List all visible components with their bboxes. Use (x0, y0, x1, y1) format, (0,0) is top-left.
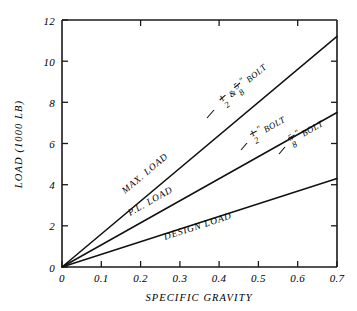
y-tick-label: 8 (49, 97, 55, 109)
y-tick-labels: 12 10 8 6 4 2 0 (43, 15, 55, 275)
bolt-annotation-pl-load: 1 2 " BOLT (247, 110, 290, 145)
series-line-max-load (62, 36, 337, 267)
y-tick-label: 10 (43, 56, 55, 68)
bolt2-text: BOLT (262, 114, 288, 134)
bolt-frac-1-den: 2 (222, 99, 232, 110)
x-tick-label: 0.7 (330, 272, 345, 284)
curve-label-design-load: DESIGN LOAD (162, 210, 233, 242)
x-tick-label: 0.2 (133, 272, 148, 284)
y-axis-ticks (62, 20, 68, 267)
bolt2-frac-den: 2 (252, 135, 261, 146)
x-axis-ticks (62, 261, 337, 267)
x-tick-label: 0.6 (290, 272, 305, 284)
x-axis-title: SPECIFIC GRAVITY (145, 292, 252, 303)
x-tick-label: 0.1 (94, 272, 109, 284)
bolt-frac-2-den: 8 (237, 87, 247, 98)
x-tick-label: 0.5 (251, 272, 266, 284)
x-tick-label: 0.4 (212, 272, 227, 284)
x-axis-top-ticks (141, 20, 298, 26)
bolt-annotation-max-load: 1 2 & 5 8 " BOLT (216, 59, 272, 110)
bolt-text: BOLT (244, 62, 269, 85)
x-tick-label: 0.3 (173, 272, 188, 284)
y-tick-label: 12 (43, 15, 55, 27)
x-tick-labels: 0 0.1 0.2 0.3 0.4 0.5 0.6 0.7 (59, 272, 344, 284)
data-series (62, 36, 337, 267)
bolt-leader-lines (207, 110, 285, 154)
y-tick-label: 6 (49, 138, 55, 150)
bolt3-frac-den: 8 (290, 139, 299, 150)
chart-figure: 12 10 8 6 4 2 0 0 0.1 0.2 0.3 0.4 0.5 0.… (0, 0, 357, 311)
y-axis-right-ticks (331, 61, 337, 226)
x-tick-label: 0 (59, 272, 65, 284)
y-axis-title: LOAD (1000 LB) (13, 100, 25, 189)
y-tick-label: 4 (49, 179, 55, 191)
bolt-annotation-design-load: 5 8 " BOLT (285, 114, 328, 149)
y-tick-label: 0 (49, 262, 55, 274)
y-tick-label: 2 (49, 220, 55, 232)
